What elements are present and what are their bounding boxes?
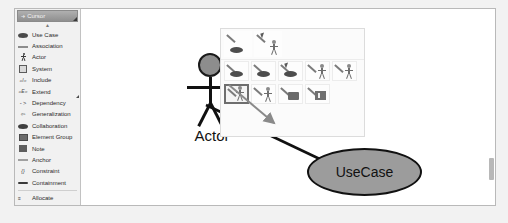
palette-item-label: Element Group [32, 134, 72, 140]
cursor-icon: ➔ [21, 14, 25, 19]
palette-item-generalization[interactable]: ⇦ Generalization [15, 109, 80, 120]
actor-generalization-icon[interactable] [332, 61, 357, 81]
palette-item-label: Note [32, 146, 45, 152]
actor-association-icon[interactable] [305, 61, 330, 81]
palette-item-label: Allocate [32, 195, 53, 201]
palette-scroll-up-icon[interactable]: ▲ [15, 22, 80, 29]
palette-item-label: Use Case [32, 32, 58, 38]
include-icon: «I» [18, 76, 29, 85]
use-case-include-icon[interactable] [251, 61, 276, 81]
palette-item-dependency[interactable]: - > Dependency [15, 97, 80, 108]
palette-item-containment[interactable]: Containment [15, 177, 80, 188]
palette-divider [18, 190, 77, 191]
actor-leg-left [197, 102, 211, 126]
scrollbar-thumb[interactable] [489, 158, 494, 180]
palette-item-label: Dependency [32, 100, 66, 106]
anchor-icon [18, 155, 29, 164]
use-case-association-icon[interactable] [224, 61, 249, 81]
note-icon [18, 144, 29, 153]
palette-item-note[interactable]: Note [15, 143, 80, 154]
use-case-shape[interactable]: UseCase [307, 148, 422, 196]
palette-item-element-group[interactable]: Element Group [15, 132, 80, 143]
diagram-editor-window: ➔ Cursor ▲ Use Case Association [14, 8, 496, 206]
allocate-icon: ≡ [18, 194, 29, 203]
popup-row-3 [221, 82, 364, 106]
association-to-use-case-icon[interactable] [224, 84, 249, 104]
palette-item-list: Use Case Association Actor System [15, 29, 80, 204]
actor-icon [18, 53, 29, 62]
use-case-icon [18, 30, 29, 39]
palette-item-label: Constraint [32, 168, 59, 174]
element-group-icon [18, 133, 29, 142]
palette-item-actor[interactable]: Actor [15, 52, 80, 63]
use-case-extend-icon[interactable] [278, 61, 303, 81]
palette-item-extend[interactable]: «E» Extend [15, 86, 80, 97]
diagram-canvas[interactable]: Actor [81, 9, 495, 205]
use-case-label: UseCase [336, 164, 394, 180]
palette-header-corner-icon [73, 17, 77, 21]
palette-item-label: Extend [32, 89, 51, 95]
constraint-icon: {} [18, 167, 29, 176]
palette-item-collaboration[interactable]: Collaboration [15, 120, 80, 131]
palette-item-anchor[interactable]: Anchor [15, 154, 80, 165]
popup-row-1 [221, 29, 364, 59]
canvas-vertical-scrollbar[interactable] [489, 9, 494, 205]
create-use-case-icon[interactable] [224, 31, 252, 57]
extend-icon: «E» [18, 87, 29, 96]
dependency-icon: - > [18, 99, 29, 108]
element-creation-popup[interactable] [220, 28, 365, 137]
palette-item-label: Containment [32, 180, 66, 186]
element-palette[interactable]: ➔ Cursor ▲ Use Case Association [15, 9, 81, 205]
palette-item-system[interactable]: System [15, 63, 80, 74]
palette-item-allocate[interactable]: ≡ Allocate [15, 192, 80, 203]
generalization-icon: ⇦ [18, 110, 29, 119]
palette-item-label: Anchor [32, 157, 51, 163]
palette-resize-corner-icon[interactable] [76, 95, 79, 98]
palette-item-label: Collaboration [32, 123, 67, 129]
palette-header-label: Cursor [27, 13, 45, 19]
association-to-system-icon[interactable] [278, 84, 303, 104]
association-to-actor-icon[interactable] [251, 84, 276, 104]
palette-item-label: Include [32, 77, 51, 83]
palette-item-include[interactable]: «I» Include [15, 75, 80, 86]
palette-item-label: Association [32, 43, 63, 49]
association-icon [18, 42, 29, 51]
palette-item-label: System [32, 66, 52, 72]
palette-item-label: Generalization [32, 111, 71, 117]
association-to-note-icon[interactable] [305, 84, 330, 104]
palette-item-label: Actor [32, 54, 46, 60]
popup-row-2 [221, 59, 364, 82]
actor-head [198, 53, 222, 77]
palette-item-use-case[interactable]: Use Case [15, 29, 80, 40]
actor-body [209, 77, 212, 105]
containment-icon [18, 178, 29, 187]
collaboration-icon [18, 121, 29, 130]
create-actor-icon[interactable] [254, 31, 282, 57]
palette-item-association[interactable]: Association [15, 40, 80, 51]
system-icon [18, 64, 29, 73]
palette-item-constraint[interactable]: {} Constraint [15, 166, 80, 177]
palette-header-cursor[interactable]: ➔ Cursor [17, 10, 78, 22]
screenshot-root: ➔ Cursor ▲ Use Case Association [0, 0, 508, 223]
